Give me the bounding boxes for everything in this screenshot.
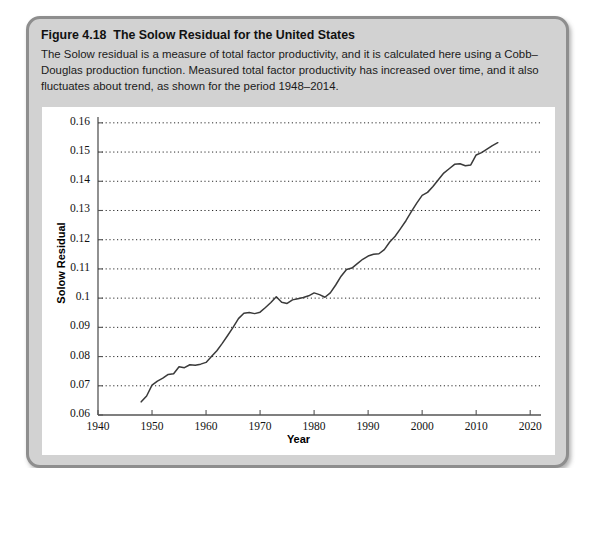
x-tick-label: 2010 bbox=[450, 420, 502, 432]
y-tick-label: 0.07 bbox=[42, 378, 90, 390]
figure-caption-block: Figure 4.18 The Solow Residual for the U… bbox=[41, 27, 555, 94]
y-tick-label: 0.15 bbox=[42, 144, 90, 156]
solow-residual-chart: Year Solow Residual 0.060.070.080.090.10… bbox=[42, 107, 555, 455]
y-tick-label: 0.12 bbox=[42, 232, 90, 244]
x-tick-label: 1950 bbox=[126, 420, 178, 432]
figure-description: The Solow residual is a measure of total… bbox=[41, 46, 555, 95]
x-tick-label: 1990 bbox=[342, 420, 394, 432]
page-bottom-area bbox=[0, 468, 595, 538]
y-tick-label: 0.14 bbox=[42, 173, 90, 185]
x-tick-label: 2020 bbox=[504, 420, 556, 432]
figure-number: Figure 4.18 bbox=[41, 28, 106, 42]
figure-heading: Figure 4.18 The Solow Residual for the U… bbox=[41, 27, 555, 44]
x-tick-label: 1980 bbox=[288, 420, 340, 432]
y-tick-label: 0.06 bbox=[42, 407, 90, 419]
y-tick-label: 0.1 bbox=[42, 290, 90, 302]
x-axis-title: Year bbox=[42, 433, 555, 445]
x-tick-label: 1970 bbox=[234, 420, 286, 432]
chart-svg bbox=[42, 107, 555, 455]
figure-card: Figure 4.18 The Solow Residual for the U… bbox=[26, 16, 569, 468]
y-tick-label: 0.13 bbox=[42, 202, 90, 214]
x-tick-label: 1960 bbox=[180, 420, 232, 432]
plot-panel: Year Solow Residual 0.060.070.080.090.10… bbox=[42, 107, 555, 455]
y-tick-label: 0.08 bbox=[42, 349, 90, 361]
x-tick-label: 2000 bbox=[396, 420, 448, 432]
figure-title: The Solow Residual for the United States bbox=[113, 28, 355, 42]
x-tick-label: 1940 bbox=[72, 420, 124, 432]
y-tick-label: 0.16 bbox=[42, 115, 90, 127]
y-tick-label: 0.11 bbox=[42, 261, 90, 273]
y-tick-label: 0.09 bbox=[42, 319, 90, 331]
